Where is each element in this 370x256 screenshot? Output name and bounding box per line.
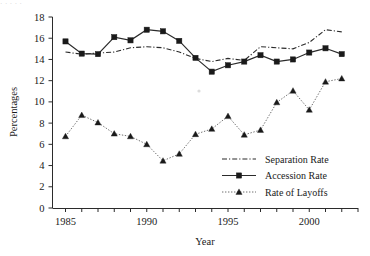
x-tick-label: 1995: [218, 216, 239, 227]
data-point-marker-square: [274, 59, 279, 64]
data-point-marker-triangle: [241, 132, 247, 138]
series-line-accession-rate: [66, 30, 342, 72]
data-point-marker-square: [79, 51, 84, 56]
chart-figure: · · · · · 024681012141618 19851990199520…: [0, 0, 370, 256]
line-chart-plot: 024681012141618 1985199019952000 Percent…: [0, 0, 370, 256]
y-tick-label: 8: [39, 118, 44, 129]
legend-label-accession-rate: Accession Rate: [265, 170, 327, 181]
data-point-marker-square: [290, 57, 295, 62]
y-tick-label: 10: [34, 96, 45, 107]
data-point-marker-square: [236, 173, 241, 178]
legend-item-accession-rate[interactable]: Accession Rate: [222, 170, 327, 181]
data-point-marker-square: [95, 52, 100, 57]
data-point-marker-square: [128, 38, 133, 43]
data-point-marker-square: [242, 59, 247, 64]
legend-item-rate-of-layoffs[interactable]: Rate of Layoffs: [222, 187, 328, 198]
x-tick-label: 1985: [55, 216, 76, 227]
data-point-marker-triangle: [290, 88, 296, 94]
data-point-marker-square: [177, 38, 182, 43]
scan-artifact-dot: [197, 89, 200, 92]
data-point-marker-square: [144, 27, 149, 32]
data-point-marker-square: [160, 29, 165, 34]
y-tick-label: 16: [34, 33, 45, 44]
data-point-marker-triangle: [95, 119, 101, 125]
data-point-marker-square: [323, 46, 328, 51]
data-point-marker-square: [339, 52, 344, 57]
y-axis-ticks: 024681012141618: [34, 12, 53, 214]
data-point-marker-triangle: [209, 126, 215, 132]
data-point-marker-square: [112, 35, 117, 40]
data-point-marker-square: [225, 63, 230, 68]
data-point-marker-triangle: [144, 141, 150, 147]
data-point-marker-square: [209, 69, 214, 74]
data-point-marker-square: [258, 53, 263, 58]
y-tick-label: 4: [39, 160, 45, 171]
data-point-marker-triangle: [192, 131, 198, 137]
y-tick-label: 0: [39, 203, 44, 214]
series-line-rate-of-layoffs: [66, 79, 342, 161]
chart-legend[interactable]: Separation RateAccession RateRate of Lay…: [222, 154, 329, 198]
data-point-marker-square: [63, 39, 68, 44]
data-point-marker-square: [307, 50, 312, 55]
y-tick-label: 6: [39, 139, 44, 150]
data-point-marker-triangle: [339, 75, 345, 81]
data-point-marker-triangle: [274, 99, 280, 105]
legend-item-separation-rate[interactable]: Separation Rate: [222, 154, 329, 165]
data-point-marker-triangle: [79, 112, 85, 118]
data-point-marker-triangle: [176, 151, 182, 157]
data-point-marker-triangle: [160, 158, 166, 164]
data-point-marker-triangle: [322, 79, 328, 85]
legend-label-separation-rate: Separation Rate: [265, 154, 329, 165]
legend-label-rate-of-layoffs: Rate of Layoffs: [265, 187, 328, 198]
x-tick-label: 1990: [136, 216, 157, 227]
y-axis-title: Percentages: [8, 87, 19, 137]
data-point-marker-square: [193, 55, 198, 60]
data-point-marker-triangle: [257, 127, 263, 133]
y-tick-label: 12: [34, 75, 45, 86]
y-tick-label: 18: [34, 12, 45, 23]
x-axis-ticks: 1985199019952000: [55, 208, 358, 227]
y-tick-label: 14: [34, 54, 45, 65]
x-tick-label: 2000: [299, 216, 320, 227]
y-tick-label: 2: [39, 181, 44, 192]
data-point-marker-triangle: [111, 131, 117, 137]
data-point-marker-triangle: [225, 113, 231, 119]
x-axis-title: Year: [195, 236, 215, 247]
data-series-group: [66, 30, 342, 161]
